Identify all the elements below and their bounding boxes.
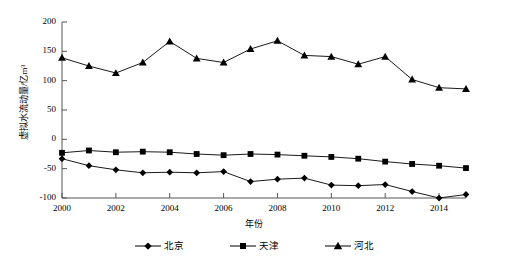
y-tick-label: 0 <box>22 134 56 143</box>
chart-legend: 北京天津河北 <box>0 240 508 252</box>
data-point <box>300 52 308 59</box>
chart-container: 虚拟水流动量/亿m³ 200150100500-50-100 200020022… <box>0 0 508 266</box>
data-point <box>355 182 362 189</box>
data-point <box>436 163 442 169</box>
data-point <box>409 161 415 167</box>
triangle-marker-icon <box>325 240 351 252</box>
plot-frame <box>62 22 466 198</box>
data-point <box>112 166 119 173</box>
data-point <box>139 169 146 176</box>
diamond-marker-icon <box>135 240 161 252</box>
square-marker-icon <box>230 240 256 252</box>
data-point <box>409 188 416 195</box>
legend-item-2[interactable]: 河北 <box>325 240 374 252</box>
data-point <box>140 149 146 155</box>
legend-label: 北京 <box>164 241 184 251</box>
data-point <box>301 175 308 182</box>
y-tick-label: -100 <box>22 193 56 202</box>
x-tick-label: 2010 <box>311 204 351 213</box>
data-point <box>247 178 254 185</box>
x-axis-title: 年份 <box>0 217 508 230</box>
data-point <box>382 181 389 188</box>
data-point <box>59 155 66 162</box>
data-point <box>221 152 227 158</box>
data-point <box>220 168 227 175</box>
y-tick-label: 200 <box>22 17 56 26</box>
data-point <box>167 149 173 155</box>
data-point <box>463 191 470 198</box>
y-tick-label: 150 <box>22 46 56 55</box>
data-point <box>113 149 119 155</box>
series-2 <box>58 37 470 92</box>
data-point <box>193 169 200 176</box>
x-tick-label: 2008 <box>257 204 297 213</box>
legend-label: 天津 <box>259 241 279 251</box>
x-tick-label: 2000 <box>42 204 82 213</box>
y-tick-label: 50 <box>22 105 56 114</box>
legend-item-0[interactable]: 北京 <box>135 240 184 252</box>
legend-item-1[interactable]: 天津 <box>230 240 279 252</box>
series-1 <box>59 148 469 171</box>
data-point <box>86 148 92 154</box>
x-tick-label: 2014 <box>419 204 459 213</box>
x-tick-label: 2004 <box>150 204 190 213</box>
data-point <box>274 37 282 44</box>
data-point <box>275 152 281 158</box>
data-point <box>86 162 93 169</box>
data-point <box>166 169 173 176</box>
x-tick-label: 2002 <box>96 204 136 213</box>
data-point <box>248 151 254 157</box>
data-point <box>328 154 334 160</box>
data-point <box>355 156 361 162</box>
data-point <box>59 150 65 156</box>
x-tick-label: 2006 <box>204 204 244 213</box>
data-point <box>193 54 201 61</box>
y-tick-label: 100 <box>22 76 56 85</box>
legend-label: 河北 <box>354 241 374 251</box>
series-0 <box>59 155 470 201</box>
data-point <box>328 182 335 189</box>
data-point <box>58 54 66 61</box>
data-series-group <box>58 37 470 202</box>
data-point <box>381 53 389 60</box>
data-point <box>139 59 147 66</box>
data-point <box>382 159 388 165</box>
x-tick-label: 2012 <box>365 204 405 213</box>
y-tick-label: -50 <box>22 164 56 173</box>
data-point <box>166 37 174 44</box>
data-point <box>274 176 281 183</box>
data-point <box>436 195 443 202</box>
data-point <box>194 151 200 157</box>
data-point <box>302 153 308 159</box>
data-point <box>463 165 469 171</box>
